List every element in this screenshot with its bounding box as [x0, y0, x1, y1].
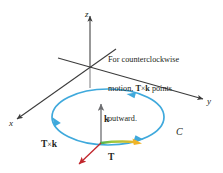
vector-field-diagram: z y x C k T T×k For counterclockwise mot…: [0, 0, 223, 173]
x-axis-label: x: [9, 118, 13, 129]
caption-text: For counterclockwise motion, T×k points …: [108, 36, 214, 143]
caption-line-2-post: points: [150, 84, 172, 93]
vector-T-label: T: [108, 152, 114, 163]
z-axis-label: z: [85, 9, 89, 20]
vector-T-cross-k-arrow: [79, 143, 101, 164]
vector-T-cross-k-label-k: k: [52, 139, 57, 149]
caption-line-2: motion, T×k points: [108, 84, 214, 94]
caption-line-3: outward.: [108, 114, 214, 124]
vector-T-cross-k: [79, 143, 101, 164]
caption-line-1: For counterclockwise: [108, 55, 214, 65]
vector-T-cross-k-label: T×k: [41, 139, 57, 150]
caption-line-2-pre: motion,: [108, 84, 135, 93]
